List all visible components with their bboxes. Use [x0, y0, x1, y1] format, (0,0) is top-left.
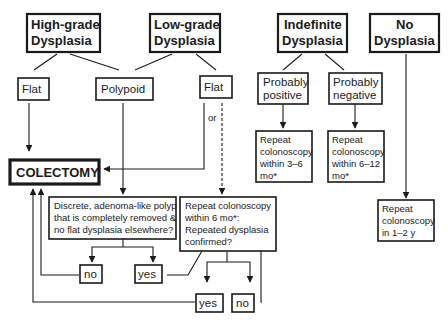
svg-text:Dysplasia: Dysplasia: [374, 33, 435, 48]
svg-text:No: No: [396, 17, 413, 32]
node-flat-high-grade: Flat: [18, 78, 49, 100]
svg-text:Low-grade: Low-grade: [154, 17, 220, 32]
svg-text:Flat: Flat: [22, 83, 42, 95]
svg-text:Repeated dysplasia: Repeated dysplasia: [185, 224, 269, 235]
svg-text:Discrete, adenoma-like polyp: Discrete, adenoma-like polyp: [54, 200, 177, 211]
node-repeat-6mo-question: Repeat colonoscopy within 6 mo*: Repeate…: [180, 197, 276, 251]
node-low-grade-dysplasia: Low-grade Dysplasia: [150, 14, 220, 52]
svg-text:Repeat colonoscopy: Repeat colonoscopy: [185, 200, 271, 211]
node-repeat-1-2-y: Repeat colonoscopy in 1–2 y: [378, 200, 435, 241]
node-confirmed-yes: yes: [196, 294, 223, 312]
edge-high-to-flat: [34, 54, 57, 70]
svg-text:Repeat: Repeat: [260, 134, 291, 145]
edge-low-to-polypoid: [135, 54, 172, 70]
node-probably-negative: Probably negative: [329, 73, 382, 104]
svg-text:Probably: Probably: [263, 76, 309, 88]
svg-text:no: no: [84, 268, 97, 280]
edge-indefinite-to-negative: [325, 54, 344, 70]
svg-text:colonoscopy: colonoscopy: [332, 146, 385, 157]
edge-question-to-yes: [123, 247, 153, 262]
svg-text:within 6–12: within 6–12: [331, 158, 380, 169]
svg-text:in 1–2 y: in 1–2 y: [382, 227, 416, 238]
svg-text:High-grade: High-grade: [31, 17, 100, 32]
svg-text:Repeat: Repeat: [382, 203, 413, 214]
node-repeat-6-12-mo: Repeat colonoscopy within 6–12 mo*: [328, 131, 385, 182]
svg-text:yes: yes: [199, 297, 217, 309]
edge-confirmed-no-loop: [261, 243, 262, 302]
svg-text:Flat: Flat: [204, 81, 224, 93]
svg-text:that is completely removed &: that is completely removed &: [54, 212, 177, 223]
node-probably-positive: Probably positive: [258, 73, 309, 104]
svg-text:no: no: [236, 297, 249, 309]
svg-text:Dysplasia: Dysplasia: [31, 33, 92, 48]
node-confirmed-no: no: [232, 294, 254, 312]
svg-text:Dysplasia: Dysplasia: [154, 33, 215, 48]
svg-text:confirmed?: confirmed?: [185, 236, 232, 247]
svg-text:negative: negative: [333, 89, 376, 101]
edge-confirmed-to-yes: [207, 262, 227, 282]
node-polyp-yes: yes: [135, 265, 162, 283]
node-flat-low-grade: Flat: [200, 76, 232, 98]
node-no-dysplasia: No Dysplasia: [370, 14, 439, 52]
node-repeat-3-6-mo: Repeat colonoscopy within 3–6 mo*: [256, 131, 313, 182]
edge-high-to-polypoid: [70, 54, 119, 70]
svg-text:Repeat: Repeat: [332, 134, 363, 145]
svg-text:Indefinite: Indefinite: [284, 17, 342, 32]
svg-text:COLECTOMY: COLECTOMY: [16, 165, 99, 180]
node-colectomy: COLECTOMY: [10, 160, 99, 184]
svg-text:Polypoid: Polypoid: [101, 83, 145, 95]
edge-label-or: or: [208, 112, 216, 123]
svg-text:no flat dysplasia elsewhere?: no flat dysplasia elsewhere?: [54, 224, 173, 235]
edge-low-to-flat: [196, 54, 216, 70]
svg-text:yes: yes: [138, 268, 156, 280]
svg-text:within 6 mo*:: within 6 mo*:: [184, 212, 239, 223]
node-discrete-polyp-question: Discrete, adenoma-like polyp that is com…: [49, 197, 177, 239]
svg-text:mo*: mo*: [332, 170, 349, 181]
dysplasia-flowchart: or High-grade Dysplasia Low-grade Dyspla…: [0, 0, 448, 320]
node-polypoid: Polypoid: [96, 78, 153, 100]
edge-indefinite-to-positive: [283, 54, 302, 70]
node-polyp-no: no: [80, 265, 102, 283]
svg-text:positive: positive: [263, 89, 302, 101]
node-high-grade-dysplasia: High-grade Dysplasia: [27, 14, 100, 52]
svg-text:Dysplasia: Dysplasia: [282, 33, 343, 48]
node-indefinite-dysplasia: Indefinite Dysplasia: [278, 14, 347, 52]
edge-question-to-no: [92, 247, 123, 262]
svg-text:mo*: mo*: [260, 170, 277, 181]
svg-text:Probably: Probably: [333, 76, 379, 88]
edge-flat-low-to-colectomy: [104, 103, 204, 169]
svg-text:colonoscopy: colonoscopy: [382, 215, 435, 226]
svg-text:within 3–6: within 3–6: [259, 158, 303, 169]
svg-text:colonoscopy: colonoscopy: [260, 146, 313, 157]
edge-confirmed-to-no: [227, 262, 250, 282]
